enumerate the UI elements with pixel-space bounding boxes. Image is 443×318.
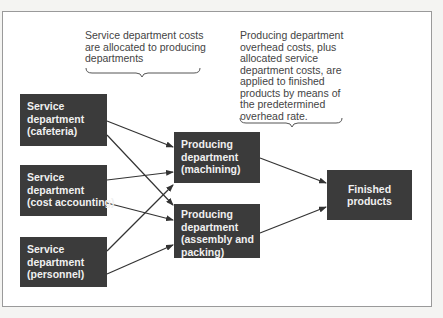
box-line: department	[27, 113, 107, 126]
finished-products-box: Finished products	[327, 170, 412, 220]
box-line: Service	[27, 100, 107, 113]
box-line: (assembly and	[181, 233, 260, 246]
box-line: department	[27, 256, 107, 269]
box-line: Producing	[181, 138, 260, 151]
arrow-cafeteria-machining	[107, 121, 173, 147]
box-line: Service	[27, 171, 107, 184]
box-line: Producing	[181, 208, 260, 221]
service-dept-cafeteria-box: Service department (cafeteria)	[20, 94, 107, 146]
arrow-personnel-assembly	[107, 245, 173, 274]
box-line: department	[181, 151, 260, 164]
producing-dept-assembly-box: Producing department (assembly and packi…	[174, 204, 260, 258]
box-line: Finished	[347, 183, 392, 196]
box-line: (cost accounting)	[27, 196, 107, 209]
finished-products-label: Finished products	[347, 183, 392, 208]
arrow-costacct-machining	[107, 172, 173, 180]
box-line: (machining)	[181, 163, 260, 176]
service-dept-personnel-box: Service department (personnel)	[20, 237, 107, 287]
service-dept-cost-accounting-box: Service department (cost accounting)	[20, 165, 107, 216]
box-line: (cafeteria)	[27, 125, 107, 138]
application-brace-icon	[240, 118, 342, 127]
box-line: Service	[27, 243, 107, 256]
arrow-machining-finished	[260, 158, 326, 183]
arrow-assembly-finished	[260, 207, 326, 233]
box-line: (personnel)	[27, 268, 107, 281]
producing-dept-machining-box: Producing department (machining)	[174, 132, 260, 183]
box-line: department	[181, 221, 260, 234]
box-line: department	[27, 184, 107, 197]
box-line: products	[347, 195, 392, 208]
box-line: packing)	[181, 246, 260, 259]
allocation-brace-icon	[86, 68, 200, 77]
